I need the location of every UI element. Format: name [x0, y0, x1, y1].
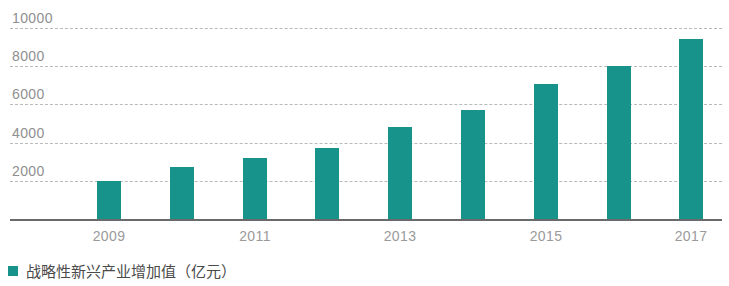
bar-2012	[315, 148, 339, 220]
legend-swatch-icon	[8, 266, 18, 276]
bar-2013	[388, 127, 412, 220]
plot-area	[10, 0, 722, 221]
bar-2010	[170, 167, 194, 220]
bar-chart: 10000 8000 6000 4000 2000 2009 2011 2013…	[0, 0, 729, 286]
chart-legend: 战略性新兴产业增加值（亿元）	[8, 260, 236, 281]
bar-2016	[607, 66, 631, 220]
x-tick-label-2011: 2011	[239, 228, 271, 244]
bar-2009	[97, 181, 121, 220]
x-axis-line	[10, 219, 722, 221]
y-tick-label-4000: 4000	[12, 125, 45, 141]
y-tick-label-10000: 10000	[12, 10, 53, 26]
bar-2014	[461, 110, 485, 220]
y-tick-label-6000: 6000	[12, 86, 45, 102]
x-tick-label-2015: 2015	[530, 228, 563, 244]
y-tick-label-2000: 2000	[12, 163, 45, 179]
bar-2017	[679, 39, 703, 220]
bar-2015	[534, 84, 558, 220]
y-tick-label-8000: 8000	[12, 48, 45, 64]
bar-2011	[243, 158, 267, 220]
bars-layer	[10, 0, 722, 220]
legend-label: 战略性新兴产业增加值（亿元）	[26, 260, 236, 281]
x-tick-label-2017: 2017	[675, 228, 708, 244]
x-tick-label-2009: 2009	[93, 228, 126, 244]
x-tick-label-2013: 2013	[384, 228, 417, 244]
